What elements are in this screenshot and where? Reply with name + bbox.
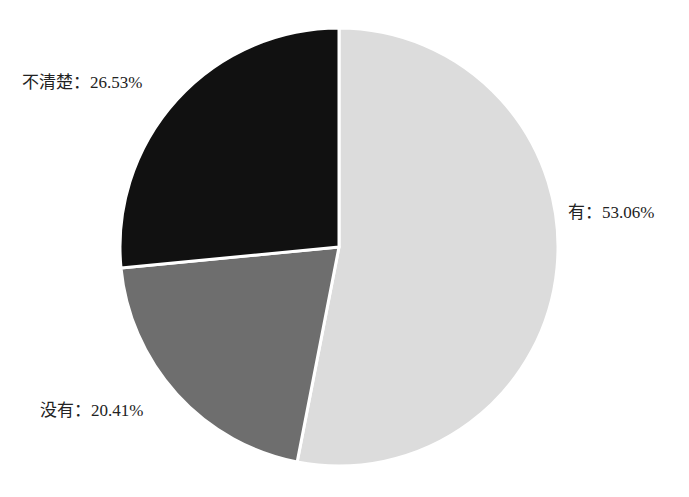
- slice-label-unclear: 不清楚：26.53%: [22, 68, 142, 93]
- slice-label-yes: 有：53.06%: [568, 198, 654, 223]
- slice-label-no: 没有：20.41%: [40, 396, 143, 421]
- pie-slice-2: [120, 28, 339, 268]
